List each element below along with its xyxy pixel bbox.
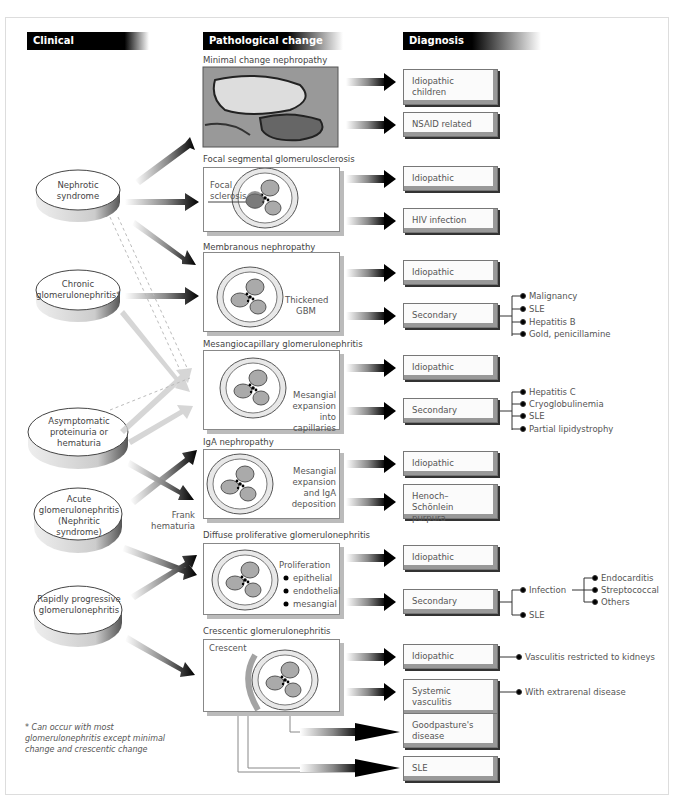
diagnosis-hiv-infection: HIV infection <box>403 208 498 233</box>
cause-gold-penicillamine: Gold, penicillamine <box>529 328 611 340</box>
pathology-title-diffuse-proliferative: Diffuse proliferative glomerulonephritis <box>203 530 370 540</box>
diagnosis-iga-idiopathic: Idiopathic <box>403 451 498 476</box>
cause-hepatitis-c: Hepatitis C <box>529 386 576 398</box>
label-focal-sclerosis: Focal sclerosis <box>210 180 250 202</box>
diagnosis-nsaid-related: NSAID related <box>403 112 498 137</box>
cause-infection: Infection <box>529 584 566 596</box>
diagnosis-goodpastures: Goodpasture's disease <box>403 713 498 748</box>
diagnosis-henoch-schonlein: Henoch–Schönlein purpura <box>403 484 498 519</box>
arrow-label-frank-hematuria: Frank hematuria <box>150 510 195 532</box>
diagnosis-mesangiocapillary-idiopathic: Idiopathic <box>403 355 498 380</box>
diagnosis-systemic-vasculitis: Systemic vasculitis <box>403 679 498 715</box>
label-mesangial-expansion-capillaries: Mesangial expansion into capillaries <box>278 390 336 434</box>
label-thickened-gbm: Thickened GBM <box>285 295 327 317</box>
cause-others: Others <box>601 596 630 608</box>
cause-tree-lines <box>500 294 598 695</box>
pathology-title-crescentic: Crescentic glomerulonephritis <box>203 626 331 636</box>
label-proliferation-endothelial: endothelial <box>293 586 340 597</box>
cause-streptococcal: Streptococcal <box>601 584 659 596</box>
cause-hepatitis-b: Hepatitis B <box>529 316 576 328</box>
clinical-rapidly-progressive: Rapidly progressive glomerulonephritis <box>36 594 122 616</box>
diagnosis-diffuse-secondary: Secondary <box>403 589 498 614</box>
pathology-title-mesangiocapillary: Mesangiocapillary glomerulonephritis <box>203 339 363 349</box>
diagnosis-mesangiocapillary-secondary: Secondary <box>403 398 498 423</box>
label-crescent: Crescent <box>209 643 247 654</box>
diagnosis-idiopathic-children: Idiopathic children <box>403 69 498 105</box>
clinical-acute-glomerulonephritis: Acute glomerulonephritis (Nephritic synd… <box>36 494 122 538</box>
header-pathological-change: Pathological change <box>203 32 343 50</box>
cause-endocarditis: Endocarditis <box>601 572 653 584</box>
cause-vasculitis-kidneys: Vasculitis restricted to kidneys <box>525 651 655 663</box>
cause-malignancy: Malignancy <box>529 290 577 302</box>
clinical-chronic-glomerulonephritis: Chronic glomerulonephritis* <box>36 279 120 301</box>
footnote: * Can occur with most glomerulonephritis… <box>25 722 175 755</box>
diagnosis-membranous-secondary: Secondary <box>403 303 498 328</box>
micrograph-minimal-change <box>203 67 338 147</box>
header-clinical-presentation: Clinical presentation <box>27 32 149 50</box>
pathology-title-focal-segmental: Focal segmental glomerulosclerosis <box>203 154 355 164</box>
diagnosis-crescentic-idiopathic: Idiopathic <box>403 644 498 669</box>
cause-extrarenal-disease: With extrarenal disease <box>525 686 626 698</box>
clinical-asymptomatic: Asymptomatic proteinuria or hematuria <box>44 416 114 449</box>
pathology-title-minimal-change: Minimal change nephropathy <box>203 55 327 65</box>
diagnosis-crescentic-sle: SLE <box>403 756 498 781</box>
diagnosis-membranous-idiopathic: Idiopathic <box>403 260 498 285</box>
pathology-arrows <box>346 73 396 701</box>
cause-sle-2: SLE <box>529 410 545 422</box>
diagnosis-diffuse-idiopathic: Idiopathic <box>403 545 498 570</box>
label-proliferation-epithelial: epithelial <box>293 573 332 584</box>
pathology-title-membranous: Membranous nephropathy <box>203 242 315 252</box>
label-proliferation: Proliferation <box>279 560 330 571</box>
label-proliferation-mesangial: mesangial <box>293 599 337 610</box>
label-mesangial-expansion-iga: Mesangial expansion and IgA deposition <box>286 466 336 510</box>
clinical-nephrotic-syndrome: Nephrotic syndrome <box>40 180 116 202</box>
header-diagnosis: Diagnosis <box>403 32 541 50</box>
cause-sle-3: SLE <box>529 609 545 621</box>
cause-sle: SLE <box>529 303 545 315</box>
cause-partial-lipidystrophy: Partial lipidystrophy <box>529 423 613 435</box>
diagnosis-focal-idiopathic: Idiopathic <box>403 166 498 191</box>
pathology-title-iga: IgA nephropathy <box>203 437 274 447</box>
cause-cryoglobulinemia: Cryoglobulinemia <box>529 398 604 410</box>
pathology-box-membranous <box>203 252 340 332</box>
